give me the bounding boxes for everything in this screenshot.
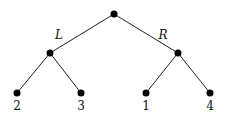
edge-left-leaf1 <box>17 53 50 93</box>
leaf-label-3: 1 <box>142 100 150 112</box>
node-right <box>175 50 182 57</box>
node-root <box>111 11 118 18</box>
edge-right-leaf3 <box>146 53 178 93</box>
leaf-label-4: 4 <box>206 100 214 112</box>
leaf-node-1 <box>14 90 21 97</box>
edge-root-right <box>114 14 178 53</box>
binary-tree-diagram: L R 2 3 1 4 <box>0 0 228 118</box>
edge-right-leaf4 <box>178 53 210 93</box>
edge-label-left: L <box>55 29 63 41</box>
node-left <box>47 50 54 57</box>
leaf-label-1: 2 <box>13 100 21 112</box>
leaf-node-3 <box>143 90 150 97</box>
leaf-node-2 <box>78 90 85 97</box>
tree-graphic <box>0 0 228 118</box>
edge-label-right: R <box>158 29 167 41</box>
edge-left-leaf2 <box>50 53 81 93</box>
leaf-label-2: 3 <box>77 100 85 112</box>
leaf-node-4 <box>207 90 214 97</box>
